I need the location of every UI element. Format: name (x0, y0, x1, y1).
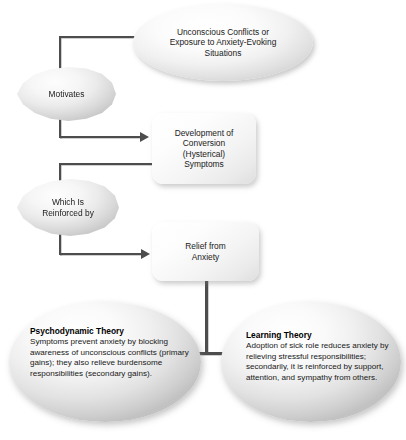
node-motivates[interactable]: Motivates (17, 67, 116, 121)
connector-development-to-reinforced-horizontal (59, 163, 153, 165)
node-unconscious-conflicts[interactable]: Unconscious Conflicts or Exposure to Anx… (133, 4, 313, 81)
node-reinforced-label: Which Is Reinforced by (42, 197, 94, 218)
node-unconscious-conflicts-label: Unconscious Conflicts or Exposure to Anx… (170, 27, 277, 58)
node-relief-label: Relief from Anxiety (185, 241, 226, 262)
node-psychodynamic-theory[interactable]: Psychodynamic Theory Symptoms prevent an… (9, 302, 201, 422)
node-learning-theory-text: Learning Theory Adoption of sick role re… (246, 330, 396, 383)
arrowhead-to-relief (141, 249, 150, 259)
connector-top-to-motivates-horizontal (59, 36, 145, 38)
node-psychodynamic-theory-text: Psychodynamic Theory Symptoms prevent an… (30, 326, 190, 379)
learning-theory-body: Adoption of sick role reduces anxiety by… (246, 341, 389, 382)
learning-theory-title: Learning Theory (246, 330, 396, 341)
node-which-is-reinforced-by[interactable]: Which Is Reinforced by (17, 179, 119, 236)
connector-relief-to-theories-vertical (205, 280, 208, 354)
connector-reinforced-to-relief-horizontal (59, 253, 142, 255)
node-motivates-label: Motivates (49, 89, 85, 99)
node-development-label: Development of Conversion (Hysterical) S… (175, 128, 234, 169)
diagram-canvas: Unconscious Conflicts or Exposure to Anx… (0, 0, 406, 440)
connector-motivates-to-development-horizontal (59, 136, 141, 138)
psychodynamic-theory-title: Psychodynamic Theory (30, 326, 190, 337)
node-relief-from-anxiety[interactable]: Relief from Anxiety (152, 222, 259, 281)
node-development-of-conversion-symptoms[interactable]: Development of Conversion (Hysterical) S… (152, 113, 256, 184)
node-learning-theory[interactable]: Learning Theory Adoption of sick role re… (221, 302, 401, 422)
arrowhead-to-development (140, 132, 149, 142)
psychodynamic-theory-body: Symptoms prevent anxiety by blocking awa… (30, 337, 189, 378)
